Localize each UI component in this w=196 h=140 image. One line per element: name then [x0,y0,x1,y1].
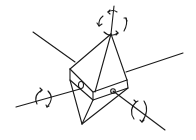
left-pivot-mark [79,82,84,89]
prism-rotation-diagram [0,0,196,140]
axis-lines [16,6,183,130]
front-back-axis-back [33,32,75,62]
front-back-axis-front [113,91,165,130]
left-right-axis-right [126,53,183,72]
prism-solid [70,34,128,124]
diagram-canvas: crystal prism with three rotation axes [0,0,196,140]
